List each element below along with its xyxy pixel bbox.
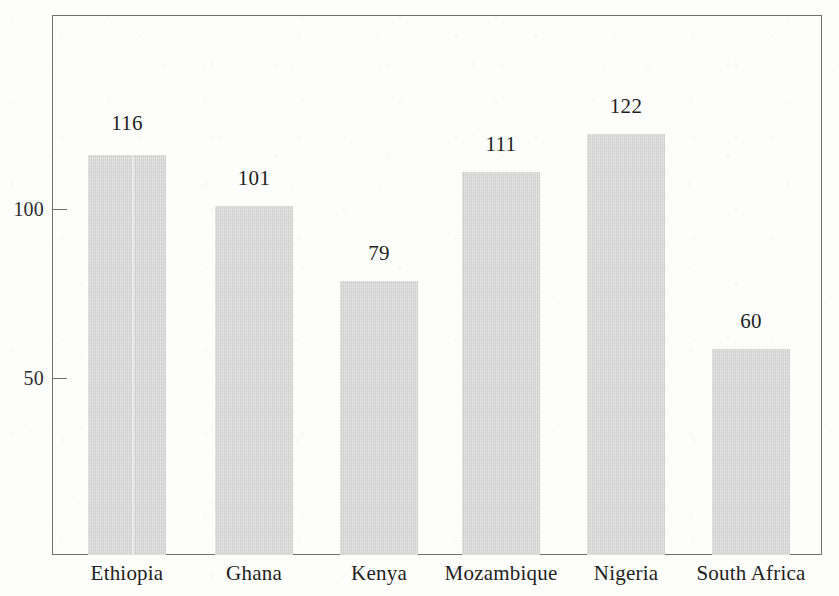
y-tick-mark-50 bbox=[52, 378, 67, 379]
bar-kenya[interactable] bbox=[340, 281, 418, 555]
value-label-mozambique: 111 bbox=[461, 134, 541, 155]
bar-nigeria[interactable] bbox=[587, 134, 665, 555]
chart-page: 100 50 116 101 79 111 122 60 Ethiopia Gh… bbox=[0, 0, 839, 596]
bar-seam bbox=[132, 155, 134, 555]
value-label-nigeria: 122 bbox=[586, 96, 666, 117]
bar-mozambique[interactable] bbox=[462, 172, 540, 555]
y-tick-label-50: 50 bbox=[0, 368, 44, 388]
category-label-ethiopia: Ethiopia bbox=[57, 563, 197, 584]
category-label-south-africa: South Africa bbox=[671, 563, 831, 584]
value-label-ghana: 101 bbox=[214, 168, 294, 189]
plot-frame bbox=[52, 15, 822, 555]
y-tick-mark-100 bbox=[52, 209, 67, 210]
category-label-ghana: Ghana bbox=[184, 563, 324, 584]
value-label-south-africa: 60 bbox=[711, 311, 791, 332]
value-label-kenya: 79 bbox=[339, 243, 419, 264]
bar-ghana[interactable] bbox=[215, 206, 293, 555]
bar-ethiopia[interactable] bbox=[88, 155, 166, 555]
value-label-ethiopia: 116 bbox=[87, 113, 167, 134]
bar-south-africa[interactable] bbox=[712, 349, 790, 555]
y-tick-label-100: 100 bbox=[0, 199, 44, 219]
